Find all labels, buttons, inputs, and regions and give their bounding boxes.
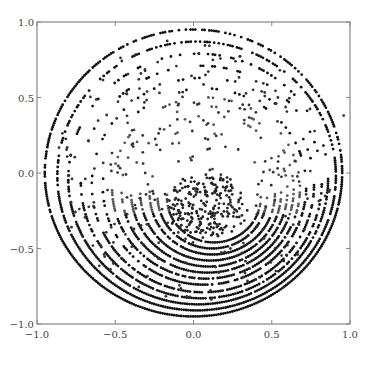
data-point (246, 280, 249, 283)
data-point (224, 145, 227, 148)
data-point (228, 299, 231, 302)
data-point (193, 187, 196, 190)
data-point (268, 98, 271, 101)
data-point (166, 40, 169, 43)
data-point (129, 284, 132, 287)
data-point (190, 159, 193, 162)
data-point (223, 251, 226, 254)
data-point (262, 228, 265, 231)
data-point (177, 199, 180, 202)
data-point (125, 216, 128, 219)
data-point (198, 52, 201, 55)
data-point (232, 215, 235, 218)
data-point (273, 52, 276, 55)
data-point (205, 277, 208, 280)
data-point (208, 44, 211, 47)
data-point (336, 136, 339, 139)
data-point (60, 141, 63, 144)
data-point (181, 204, 184, 207)
data-point (81, 235, 84, 238)
data-point (153, 87, 156, 90)
data-point (103, 134, 106, 137)
data-point (145, 77, 148, 80)
data-point (67, 174, 70, 177)
data-point (226, 311, 229, 314)
data-point (113, 66, 116, 69)
data-point (181, 96, 184, 99)
data-point (292, 193, 295, 196)
data-point (159, 45, 162, 48)
data-point (109, 268, 112, 271)
data-point (206, 309, 209, 312)
data-point (288, 164, 291, 167)
data-point (204, 74, 207, 77)
data-point (215, 199, 218, 202)
data-point (184, 261, 187, 264)
data-point (173, 287, 176, 290)
data-point (240, 36, 243, 39)
data-point (183, 268, 186, 271)
data-point (56, 114, 59, 117)
data-point (210, 105, 213, 108)
data-point (253, 161, 256, 164)
data-point (117, 265, 120, 268)
data-point (322, 144, 325, 147)
data-point (174, 204, 177, 207)
data-point (171, 222, 174, 225)
data-point (185, 41, 188, 44)
data-point (139, 192, 142, 195)
data-point (287, 261, 290, 264)
data-point (179, 54, 182, 57)
data-point (280, 175, 283, 178)
data-point (331, 143, 334, 146)
data-point (323, 207, 326, 210)
data-point (211, 87, 214, 90)
data-point (199, 191, 202, 194)
data-point (309, 213, 312, 216)
data-point (120, 192, 123, 195)
data-point (277, 173, 280, 176)
data-point (291, 257, 294, 260)
data-point (158, 92, 161, 95)
data-point (217, 111, 220, 114)
data-point (285, 221, 288, 224)
data-point (184, 212, 187, 215)
data-point (213, 296, 216, 299)
data-point (203, 41, 206, 44)
data-point (255, 111, 258, 114)
data-point (119, 149, 122, 152)
data-point (299, 236, 302, 239)
data-point (114, 162, 117, 165)
data-point (200, 291, 203, 294)
data-point (184, 275, 187, 278)
data-point (176, 118, 179, 121)
data-point (67, 181, 70, 184)
data-point (218, 202, 221, 205)
data-point (212, 123, 215, 126)
data-point (217, 42, 220, 45)
data-point (214, 241, 217, 244)
x-tick-label: 1.0 (342, 329, 358, 340)
data-point (179, 226, 182, 229)
data-point (320, 192, 323, 195)
data-point (251, 221, 254, 224)
data-point (309, 231, 312, 234)
data-point (177, 104, 180, 107)
data-point (193, 77, 196, 80)
data-point (292, 197, 295, 200)
data-point (285, 199, 288, 202)
data-point (271, 208, 274, 211)
data-point (157, 257, 160, 260)
data-point (230, 56, 233, 59)
data-point (212, 227, 215, 230)
data-point (130, 245, 133, 248)
data-point (213, 41, 216, 44)
data-point (124, 233, 127, 236)
data-point (312, 193, 315, 196)
data-point (231, 187, 234, 190)
data-point (193, 277, 196, 280)
data-point (181, 275, 184, 278)
data-point (119, 56, 122, 59)
data-point (284, 106, 287, 109)
data-point (266, 197, 269, 200)
